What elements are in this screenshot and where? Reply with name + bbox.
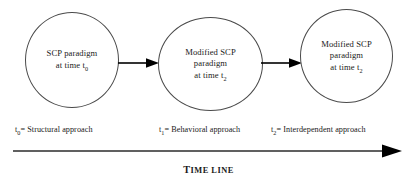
node-3-line-3: at time t xyxy=(330,62,359,72)
node-1-label: SCP paradigmat time t0 xyxy=(41,48,104,71)
node-2-label: Modified SCPparadigmat time t2 xyxy=(179,47,242,82)
node-2-subscript: 2 xyxy=(223,75,226,82)
node-2-line-3: at time t xyxy=(194,70,223,80)
timeline-arrow xyxy=(13,143,403,159)
caption-2-text: = Interdependent approach xyxy=(276,125,365,134)
timeline-title: TIME LINE xyxy=(0,164,417,175)
node-modified-scp-paradigm-t2-a: Modified SCPparadigmat time t2 xyxy=(158,17,263,111)
caption-t0: t0= Structural approach xyxy=(15,124,93,135)
node-3-line-1: Modified SCP xyxy=(321,39,372,49)
node-2-line-1: Modified SCP xyxy=(185,47,236,57)
node-1-line-2: at time t xyxy=(56,60,85,70)
caption-1-text: = Behavioral approach xyxy=(164,125,240,134)
node-3-line-2: paradigm xyxy=(330,50,363,60)
node-scp-paradigm-t0: SCP paradigmat time t0 xyxy=(25,12,119,108)
node-2-line-2: paradigm xyxy=(194,58,227,68)
timeline-diagram: SCP paradigmat time t0 Modified SCPparad… xyxy=(0,0,417,182)
node-3-label: Modified SCPparadigmat time t2 xyxy=(315,39,378,74)
node-1-subscript: 0 xyxy=(85,65,88,72)
caption-t2: t2= Interdependent approach xyxy=(271,124,366,135)
connector-arrow-1 xyxy=(118,56,160,70)
node-modified-scp-paradigm-t2-b: Modified SCPparadigmat time t2 xyxy=(300,9,393,103)
timeline-title-rest: IME LINE xyxy=(190,166,233,175)
node-3-subscript: 2 xyxy=(359,67,362,74)
connector-arrow-2 xyxy=(261,56,303,70)
node-1-line-1: SCP paradigm xyxy=(47,48,98,58)
caption-0-text: = Structural approach xyxy=(20,125,92,134)
caption-t1: t1= Behavioral approach xyxy=(159,124,240,135)
